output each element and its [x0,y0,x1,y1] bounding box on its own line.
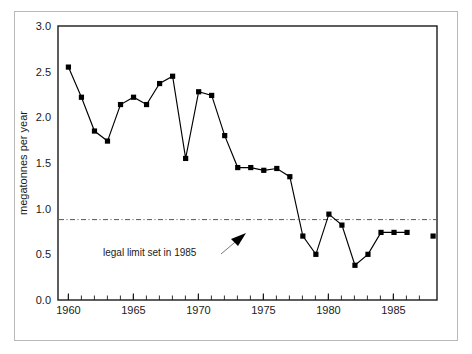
data-point-marker [92,128,97,133]
x-tick-label: 1970 [186,304,210,316]
y-tick-label: 0.5 [36,248,51,260]
line-chart: 3.0 2.5 2.0 1.5 1.0 0.5 0.0 megatonnes p… [0,0,472,354]
y-axis-tick-labels: 3.0 2.5 2.0 1.5 1.0 0.5 0.0 [36,20,51,306]
chart-figure: 3.0 2.5 2.0 1.5 1.0 0.5 0.0 megatonnes p… [0,0,472,354]
data-point-marker [352,263,357,268]
y-tick-label: 1.0 [36,203,51,215]
data-point-marker [144,102,149,107]
x-tick-label: 1980 [316,304,340,316]
data-point-marker [326,212,331,217]
data-point-marker [209,93,214,98]
data-point-marker [261,168,266,173]
data-point-marker [66,65,71,70]
data-point-marker [222,133,227,138]
data-point-marker [313,252,318,257]
data-point-marker [235,165,240,170]
x-tick-label: 1965 [121,304,145,316]
data-point-marker [196,89,201,94]
y-tick-label: 3.0 [36,20,51,32]
x-tick-label: 1975 [251,304,275,316]
y-tick-label: 2.5 [36,66,51,78]
data-point-marker [365,252,370,257]
plot-background [58,26,437,300]
data-point-marker [248,165,253,170]
data-point-marker [131,95,136,100]
data-point-marker [287,174,292,179]
data-point-marker [170,74,175,79]
data-point-marker [183,156,188,161]
x-tick-label: 1960 [56,304,80,316]
data-point-marker [378,230,383,235]
data-point-marker [339,223,344,228]
annotation-label: legal limit set in 1985 [103,247,197,258]
data-point-marker [404,230,409,235]
y-tick-label: 0.0 [36,294,51,306]
data-point-marker [118,102,123,107]
y-tick-label: 2.0 [36,111,51,123]
data-point-marker [274,166,279,171]
data-point-marker [105,138,110,143]
x-axis-tick-labels: 1960 1965 1970 1975 1980 1985 [56,304,405,316]
data-point-marker [391,230,396,235]
y-axis-title: megatonnes per year [17,111,29,215]
data-point-marker [300,233,305,238]
data-point-marker [79,95,84,100]
x-tick-label: 1985 [381,304,405,316]
y-tick-label: 1.5 [36,157,51,169]
data-point-marker [430,233,435,238]
data-point-marker [157,81,162,86]
